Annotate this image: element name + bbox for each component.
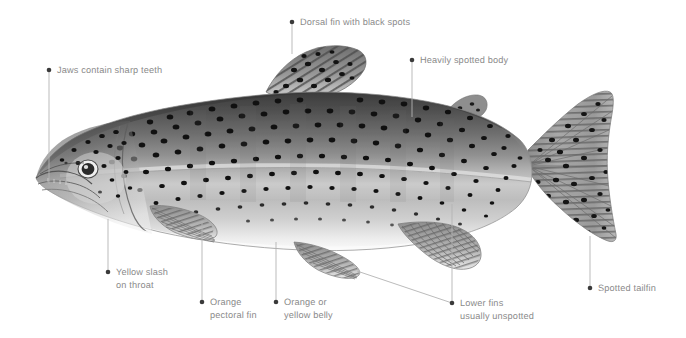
caudal-fin bbox=[520, 85, 624, 249]
callout-label-line1: Lower fins bbox=[460, 298, 503, 308]
callout-label-line1: Jaws contain sharp teeth bbox=[57, 65, 162, 75]
callout-label-line2: pectoral fin bbox=[210, 309, 257, 322]
callout-orange-pectoral-fin: Orangepectoral fin bbox=[210, 296, 257, 321]
callout-dorsal-fin-with-black-spots: Dorsal fin with black spots bbox=[300, 16, 410, 29]
callout-label-line1: Orange bbox=[210, 297, 242, 307]
callout-label-line2: yellow belly bbox=[284, 309, 333, 322]
callout-orange-or-yellow-belly: Orange oryellow belly bbox=[284, 296, 333, 321]
callout-label-line1: Spotted tailfin bbox=[598, 283, 656, 293]
rainbow-trout-illustration bbox=[0, 0, 686, 338]
callout-label-line2: on throat bbox=[116, 279, 168, 292]
callout-label-line1: Dorsal fin with black spots bbox=[300, 17, 410, 27]
fish-anatomy-diagram: Jaws contain sharp teethDorsal fin with … bbox=[0, 0, 686, 338]
callout-lower-fins-usually-unspotted: Lower finsusually unspotted bbox=[460, 297, 534, 322]
callout-label-line1: Yellow slash bbox=[116, 267, 168, 277]
callout-yellow-slash-on-throat: Yellow slashon throat bbox=[116, 266, 168, 291]
callout-jaws-contain-sharp-teeth: Jaws contain sharp teeth bbox=[57, 64, 162, 77]
callout-label-line1: Orange or bbox=[284, 297, 327, 307]
callout-label-line1: Heavily spotted body bbox=[420, 55, 508, 65]
callout-label-line2: usually unspotted bbox=[460, 310, 534, 323]
callout-heavily-spotted-body: Heavily spotted body bbox=[420, 54, 508, 67]
callout-spotted-tailfin: Spotted tailfin bbox=[598, 282, 656, 295]
